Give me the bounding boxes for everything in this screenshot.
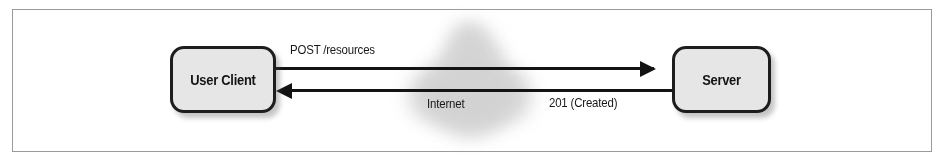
internet-cloud-label: Internet (427, 96, 464, 111)
response-arrowhead-icon (276, 83, 292, 99)
node-user-client-label: User Client (190, 71, 255, 88)
response-arrow-label: 201 (Created) (549, 95, 617, 110)
request-arrowhead-icon (640, 61, 656, 77)
diagram-figure: User Client Server POST /resources 201 (… (0, 0, 946, 163)
node-server: Server (672, 46, 771, 113)
node-user-client: User Client (170, 46, 276, 113)
figure-border (12, 9, 932, 152)
node-server-label: Server (702, 71, 741, 88)
response-arrow-line (292, 89, 672, 92)
request-arrow-line (276, 67, 654, 70)
request-arrow-label: POST /resources (290, 42, 375, 57)
